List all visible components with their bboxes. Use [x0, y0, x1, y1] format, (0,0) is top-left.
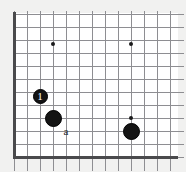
grid-line-vertical [66, 11, 67, 171]
grid-line-horizontal [13, 53, 184, 54]
grid-line-horizontal [13, 144, 184, 145]
grid-line-vertical [131, 11, 132, 171]
grid-line-vertical [27, 11, 28, 171]
grid-line-horizontal [13, 66, 184, 67]
star-point-lower-right [129, 116, 133, 120]
star-point-upper-right [129, 42, 133, 46]
point-label-a: a [64, 126, 69, 137]
grid-line-horizontal [13, 40, 184, 41]
grid-line-horizontal [13, 79, 184, 80]
go-board-diagram: 1 a [0, 0, 186, 172]
grid-line-vertical [170, 11, 171, 171]
grid-line-vertical [53, 11, 54, 171]
grid-line-horizontal [13, 14, 184, 15]
grid-line-horizontal [13, 131, 184, 132]
stone-1: 1 [33, 89, 48, 104]
board-surface [14, 13, 178, 158]
grid-line-vertical [118, 11, 119, 171]
grid-line-horizontal [13, 27, 184, 28]
board-edge-bottom [13, 156, 178, 159]
stone-black-left [45, 110, 62, 127]
grid-line-vertical [144, 11, 145, 171]
grid-line-vertical [79, 11, 80, 171]
grid-line-horizontal [13, 105, 184, 106]
stone-black-right [123, 123, 140, 140]
grid-line-horizontal [13, 118, 184, 119]
stone-move-number: 1 [34, 90, 47, 103]
board-edge-left [13, 12, 16, 159]
grid-line-vertical [157, 11, 158, 171]
grid-line-vertical [105, 11, 106, 171]
grid-line-vertical [92, 11, 93, 171]
star-point-upper-left [51, 42, 55, 46]
